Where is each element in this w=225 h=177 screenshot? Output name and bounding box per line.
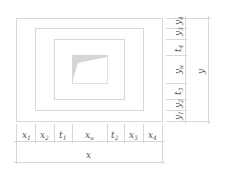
middle-rect <box>36 29 144 111</box>
label-xu: xu <box>85 130 94 141</box>
label-t1: t1 <box>59 130 66 141</box>
diagram-canvas: x1 x2 t1 xu t2 x3 x4 x y4 y3 t4 yu t3 y2… <box>0 0 225 177</box>
label-x4: x4 <box>148 130 157 141</box>
label-t3: t3 <box>173 87 184 95</box>
label-y-total: y <box>196 68 206 75</box>
inner-rect <box>55 40 125 100</box>
label-y1: y1 <box>173 111 184 121</box>
label-y4: y4 <box>173 16 184 26</box>
label-t4: t4 <box>173 44 184 52</box>
core-shaded-area <box>72 55 107 83</box>
right-labels: y4 y3 t4 yu t3 y2 y1 y <box>173 16 206 121</box>
outer-rect <box>17 19 163 122</box>
label-x3: x3 <box>129 130 138 141</box>
label-yu: yu <box>173 65 184 75</box>
label-x-total: x <box>86 150 91 160</box>
dimension-diagram: x1 x2 t1 xu t2 x3 x4 x y4 y3 t4 yu t3 y2… <box>0 0 225 177</box>
label-x1: x1 <box>22 130 31 141</box>
label-y2: y2 <box>173 99 184 109</box>
label-x2: x2 <box>40 130 49 141</box>
label-t2: t2 <box>111 130 119 141</box>
